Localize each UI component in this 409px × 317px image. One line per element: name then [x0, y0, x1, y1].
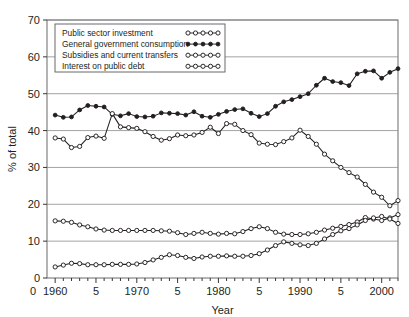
series-marker-0-22 [233, 108, 237, 112]
series-marker-3-31 [306, 243, 310, 247]
legend-swatch-marker-3-2 [201, 64, 205, 68]
y-tick-label-40: 40 [28, 125, 40, 137]
series-marker-0-16 [184, 113, 188, 117]
legend-swatch-marker-0-3 [208, 31, 212, 35]
series-marker-3-39 [371, 216, 375, 220]
legend-swatch-marker-2-0 [186, 53, 190, 57]
series-marker-0-23 [241, 107, 245, 111]
series-marker-1-14 [167, 137, 171, 141]
series-marker-2-11 [143, 228, 147, 232]
legend-swatch-marker-3-0 [186, 64, 190, 68]
series-marker-3-33 [322, 237, 326, 241]
y-tick-label-10: 10 [28, 235, 40, 247]
series-marker-2-25 [257, 225, 261, 229]
legend-swatch-marker-0-4 [216, 31, 220, 35]
series-marker-3-18 [200, 255, 204, 259]
series-marker-0-37 [355, 72, 359, 76]
series-marker-3-15 [176, 253, 180, 257]
series-marker-0-39 [372, 69, 376, 73]
series-marker-2-27 [273, 230, 277, 234]
series-marker-0-38 [363, 69, 367, 73]
series-marker-0-32 [314, 83, 318, 87]
series-marker-1-35 [339, 165, 343, 169]
series-marker-3-12 [151, 258, 155, 262]
series-marker-3-11 [143, 260, 147, 264]
series-marker-0-14 [168, 111, 172, 115]
y-axis-title: % of total [6, 126, 18, 172]
series-marker-0-29 [290, 98, 294, 102]
series-marker-1-27 [273, 142, 277, 146]
y-tick-label-50: 50 [28, 88, 40, 100]
series-marker-2-42 [396, 213, 400, 217]
series-marker-1-19 [208, 125, 212, 129]
series-marker-1-3 [78, 144, 82, 148]
series-marker-1-42 [396, 199, 400, 203]
series-marker-3-1 [61, 263, 65, 267]
series-marker-0-24 [249, 111, 253, 115]
series-marker-3-28 [282, 240, 286, 244]
x-tick-label-1980: 1980 [206, 285, 230, 297]
legend-swatch-marker-1-0 [186, 42, 190, 46]
series-marker-0-25 [257, 115, 261, 119]
series-marker-3-34 [331, 232, 335, 236]
series-marker-0-10 [135, 115, 139, 119]
series-marker-1-11 [143, 130, 147, 134]
series-marker-3-7 [110, 262, 114, 266]
legend-swatch-marker-1-3 [209, 42, 213, 46]
series-marker-2-21 [224, 231, 228, 235]
faint-header-strip [0, 0, 409, 9]
series-marker-3-14 [167, 253, 171, 257]
legend-label-1: General government consumption [62, 39, 189, 49]
series-marker-1-0 [53, 136, 57, 140]
series-marker-3-21 [224, 254, 228, 258]
legend-swatch-marker-3-1 [193, 64, 197, 68]
series-marker-3-32 [314, 241, 318, 245]
series-marker-1-34 [331, 159, 335, 163]
legend-swatch-marker-0-0 [186, 31, 190, 35]
chart-canvas: 0102030405060701960519705198051990520000… [0, 0, 409, 317]
series-marker-0-27 [274, 104, 278, 108]
series-marker-1-20 [216, 131, 220, 135]
series-marker-3-6 [102, 263, 106, 267]
legend-swatch-marker-1-4 [216, 42, 220, 46]
series-marker-3-5 [94, 263, 98, 267]
legend-label-3: Interest on public debt [62, 61, 145, 71]
series-marker-3-25 [257, 252, 261, 256]
series-marker-2-5 [94, 227, 98, 231]
x-tick-label-1990: 1990 [288, 285, 312, 297]
series-marker-1-39 [371, 190, 375, 194]
series-marker-2-10 [135, 228, 139, 232]
legend-swatch-marker-1-1 [194, 42, 198, 46]
series-marker-3-24 [249, 253, 253, 257]
series-marker-1-15 [176, 133, 180, 137]
series-marker-3-40 [380, 214, 384, 218]
series-marker-2-2 [69, 220, 73, 224]
series-marker-2-12 [151, 228, 155, 232]
series-marker-2-4 [86, 225, 90, 229]
series-marker-3-35 [339, 229, 343, 233]
series-marker-2-34 [331, 226, 335, 230]
series-marker-3-8 [118, 262, 122, 266]
series-marker-1-24 [249, 133, 253, 137]
series-marker-3-22 [233, 254, 237, 258]
series-marker-0-4 [86, 104, 90, 108]
y-tick-label-30: 30 [28, 161, 40, 173]
series-marker-1-37 [355, 175, 359, 179]
series-marker-3-19 [208, 254, 212, 258]
series-marker-1-21 [224, 121, 228, 125]
series-marker-0-5 [94, 104, 98, 108]
series-marker-1-36 [347, 170, 351, 174]
series-marker-1-5 [94, 134, 98, 138]
series-marker-2-1 [61, 219, 65, 223]
legend-swatch-marker-3-3 [208, 64, 212, 68]
series-marker-0-8 [119, 114, 123, 118]
series-marker-3-9 [127, 262, 131, 266]
series-marker-1-2 [69, 145, 73, 149]
series-marker-2-29 [290, 232, 294, 236]
series-marker-3-23 [241, 254, 245, 258]
series-marker-1-28 [282, 140, 286, 144]
series-marker-3-4 [86, 263, 90, 267]
series-marker-1-8 [118, 125, 122, 129]
series-marker-2-36 [347, 222, 351, 226]
series-marker-0-18 [200, 114, 204, 118]
